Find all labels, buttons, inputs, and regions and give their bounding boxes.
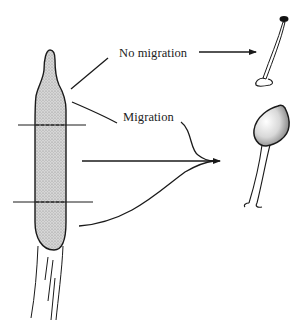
small-dark-head	[280, 16, 289, 22]
outcome-migration	[244, 105, 289, 207]
stippled-body	[35, 50, 66, 250]
fibrous-base	[31, 246, 63, 320]
large-rounded-head	[254, 105, 289, 146]
label-migration: Migration	[123, 110, 174, 125]
migration-arrows	[79, 122, 220, 226]
label-no-migration: No migration	[119, 46, 187, 61]
source-structure	[13, 50, 93, 320]
thin-stalk	[263, 22, 285, 79]
migration-arrow-top	[181, 122, 214, 161]
migration-arrow-bottom	[79, 161, 214, 226]
outcome-no-migration	[256, 16, 289, 86]
split-foot	[244, 203, 262, 207]
migration-pointer	[72, 102, 117, 123]
label-pointers	[71, 58, 117, 123]
looped-foot	[256, 78, 273, 86]
no-migration-pointer	[71, 58, 108, 89]
stalk	[249, 145, 270, 203]
